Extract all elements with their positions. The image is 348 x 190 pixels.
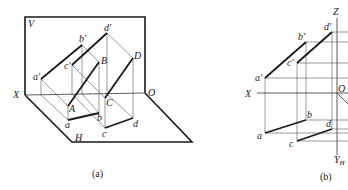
figure-b: Z X O YH a′ b′ c′ d′ a b c d (b) xyxy=(244,6,348,183)
label-o-a: O xyxy=(148,87,155,98)
label-a-prime-b: a′ xyxy=(255,72,263,83)
line-CD-space xyxy=(105,58,133,98)
label-d-a: d xyxy=(133,118,139,129)
label-b-prime-a: b′ xyxy=(79,33,87,44)
label-x-b: X xyxy=(244,88,252,99)
line-ab-top xyxy=(68,113,99,120)
label-a-b: a xyxy=(257,130,262,141)
label-yh: YH xyxy=(334,154,346,167)
figure-a: V H X O a′ b′ c′ d′ A B C D a b c d (a) xyxy=(12,17,192,180)
label-b-a: b xyxy=(97,112,102,123)
diagonal-45-line xyxy=(337,93,348,104)
label-a-prime-a: a′ xyxy=(33,71,41,82)
caption-a: (a) xyxy=(92,168,103,180)
label-c-b: c xyxy=(289,138,294,149)
label-h: H xyxy=(74,132,83,143)
label-A: A xyxy=(68,103,76,114)
label-b-b: b xyxy=(307,109,312,120)
label-c-prime-b: c′ xyxy=(287,57,294,68)
label-o-b: O xyxy=(338,83,345,94)
label-b-prime-b: b′ xyxy=(298,31,306,42)
label-a-a: a xyxy=(65,119,70,130)
label-v: V xyxy=(28,18,36,29)
label-C: C xyxy=(106,97,113,108)
line-AB-space xyxy=(68,62,99,106)
label-z: Z xyxy=(333,6,339,17)
label-D: D xyxy=(133,50,142,61)
label-c-prime-a: c′ xyxy=(64,60,71,71)
label-x-a: X xyxy=(12,89,20,100)
x-axis-a xyxy=(25,93,145,95)
line-cd-top-b xyxy=(297,129,332,141)
label-d-prime-b: d′ xyxy=(324,21,332,32)
label-d-prime-a: d′ xyxy=(104,22,112,33)
caption-b: (b) xyxy=(320,171,332,183)
line-cd-top xyxy=(105,118,133,128)
label-c-a: c xyxy=(102,128,107,139)
label-B: B xyxy=(101,55,107,66)
label-d-b: d xyxy=(326,118,332,129)
line-ab-top-b xyxy=(265,120,306,133)
projection-diagram: V H X O a′ b′ c′ d′ A B C D a b c d (a) xyxy=(0,0,348,190)
